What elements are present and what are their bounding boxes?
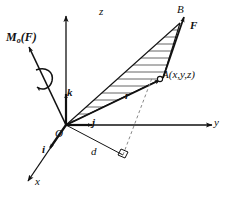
moment-subscript: o xyxy=(17,36,21,45)
moment-of-force-diagram: z y x i j k O A(x,y,z) B F r d Mo(F) xyxy=(0,0,226,201)
axis-label-z: z xyxy=(99,6,103,17)
moment-vector-Mo xyxy=(29,47,66,125)
unit-vector-label-j: j xyxy=(92,117,95,128)
moment-argument: (F) xyxy=(21,30,37,44)
force-vector-label: F xyxy=(190,20,197,31)
unit-vector-label-k: k xyxy=(67,87,73,98)
point-label-b: B xyxy=(177,4,184,15)
moment-symbol: M xyxy=(6,30,17,44)
unit-vector-label-i: i xyxy=(42,144,45,155)
moment-vector-label: Mo(F) xyxy=(6,31,37,43)
axis-label-x: x xyxy=(35,176,40,187)
distance-label-d: d xyxy=(91,146,97,157)
position-vector-label: r xyxy=(125,90,129,101)
point-label-a: A(x,y,z) xyxy=(162,69,195,80)
axis-label-y: y xyxy=(214,117,219,128)
point-label-origin: O xyxy=(55,128,63,139)
